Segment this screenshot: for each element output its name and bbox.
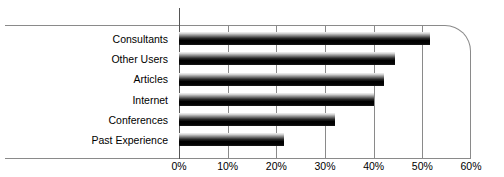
- xtick-label-60: 60%: [460, 161, 481, 172]
- category-row: Past Experience: [0, 131, 174, 149]
- category-label-consultants: Consultants: [113, 34, 168, 45]
- category-row: Consultants: [0, 30, 174, 48]
- bar-consultants: [179, 32, 430, 45]
- xtick-label-20: 20%: [266, 161, 287, 172]
- category-label-internet: Internet: [132, 95, 168, 106]
- category-row: Articles: [0, 71, 174, 89]
- bar-internet: [179, 93, 374, 106]
- bar-articles: [179, 73, 384, 86]
- bar-row: [179, 91, 471, 109]
- category-label-conferences: Conferences: [108, 115, 168, 126]
- category-axis: Consultants Other Users Articles Interne…: [0, 30, 174, 152]
- bar-row: [179, 71, 471, 89]
- category-label-past-experience: Past Experience: [92, 135, 168, 146]
- bar-row: [179, 131, 471, 149]
- bar-past-experience: [179, 133, 284, 146]
- value-axis: 0% 10% 20% 30% 40% 50% 60%: [179, 161, 471, 177]
- bar-other-users: [179, 52, 395, 65]
- xtick-label-0: 0%: [171, 161, 186, 172]
- category-row: Internet: [0, 91, 174, 109]
- bar-row: [179, 50, 471, 68]
- xtick-label-50: 50%: [412, 161, 433, 172]
- xtick-label-10: 10%: [217, 161, 238, 172]
- category-label-articles: Articles: [134, 74, 168, 85]
- category-row: Other Users: [0, 50, 174, 68]
- category-row: Conferences: [0, 111, 174, 129]
- xtick-label-30: 30%: [314, 161, 335, 172]
- bar-chart: Consultants Other Users Articles Interne…: [0, 0, 504, 177]
- bar-row: [179, 30, 471, 48]
- bar-conferences: [179, 113, 335, 126]
- category-label-other-users: Other Users: [111, 54, 168, 65]
- xtick-label-40: 40%: [363, 161, 384, 172]
- bar-series: [179, 30, 471, 152]
- bar-row: [179, 111, 471, 129]
